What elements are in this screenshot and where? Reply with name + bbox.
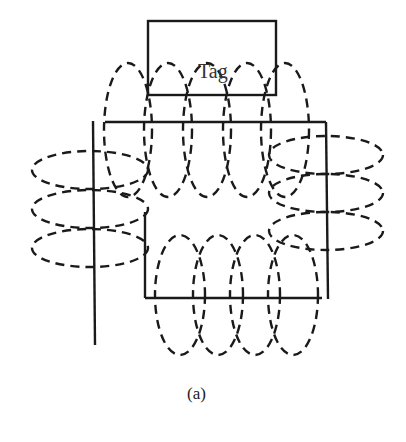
antenna-right-line: [326, 122, 328, 299]
field-loop-bottom-3: [230, 235, 280, 355]
field-loop-bottom-2: [193, 235, 243, 355]
field-loop-left-3: [32, 229, 148, 267]
tag-box: [148, 21, 276, 95]
field-loops-left: [32, 151, 148, 267]
field-loop-left-1: [32, 151, 148, 189]
figure-caption: (a): [187, 384, 206, 404]
field-loop-bottom-1: [155, 235, 205, 355]
field-loops-top: [104, 63, 309, 197]
field-loop-bottom-4: [268, 235, 318, 355]
field-loops-bottom: [155, 235, 318, 355]
left-vertical-conductor: [93, 121, 95, 345]
field-loop-left-2: [32, 190, 148, 228]
tag-label: Tag: [198, 60, 228, 83]
